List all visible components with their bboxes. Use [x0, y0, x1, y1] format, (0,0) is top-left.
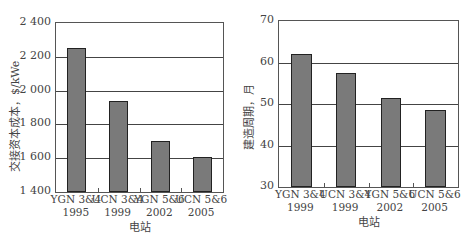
bar	[425, 110, 446, 187]
bar	[381, 98, 402, 187]
capital-cost-chart: 交接资本成本，$/kWe 电站 1 4001 6001 8002 0002 20…	[0, 0, 234, 239]
x-tick-mark	[181, 188, 182, 192]
y-tick-label: 30	[234, 179, 274, 192]
y-tick-label: 2 000	[11, 83, 51, 96]
y-tick-label: 70	[234, 13, 274, 26]
y-tick-label: 1 800	[11, 116, 51, 129]
x-tick-label: UCN 5&62005	[406, 188, 463, 214]
y-tick-label: 50	[234, 96, 274, 109]
bar	[291, 54, 312, 187]
y-tick-label: 1 400	[11, 184, 51, 197]
x-axis-title: 电站	[278, 213, 459, 229]
bar	[193, 157, 212, 192]
y-tick-label: 2 400	[11, 15, 51, 28]
y-tick-label: 60	[234, 55, 274, 68]
construction-period-chart: 建造周期，月 电站 3040506070YGN 3&41999UCN 3&419…	[234, 0, 468, 239]
y-tick-label: 40	[234, 138, 274, 151]
bar	[151, 141, 170, 192]
x-tick-mark	[98, 188, 99, 192]
y-tick-label: 1 600	[11, 150, 51, 163]
bar	[336, 73, 357, 187]
x-tick-mark	[324, 183, 325, 187]
x-axis-title: 电站	[55, 218, 224, 234]
x-tick-mark	[369, 183, 370, 187]
x-tick-mark	[413, 183, 414, 187]
x-tick-mark	[140, 188, 141, 192]
y-tick-label: 2 200	[11, 49, 51, 62]
plot-area	[278, 20, 459, 188]
x-tick-label: UCN 5&62005	[174, 193, 228, 219]
bar	[67, 48, 86, 192]
plot-area	[55, 22, 224, 193]
bar	[109, 101, 128, 192]
